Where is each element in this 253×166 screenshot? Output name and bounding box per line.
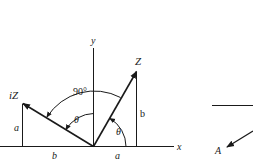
- theta-iz-arc: [66, 114, 94, 130]
- iz-vertical-label: a: [14, 122, 19, 133]
- fragment-label: A: [214, 145, 222, 156]
- iz-vector: [23, 104, 94, 147]
- z-vertical-label: b: [140, 108, 145, 119]
- right-angle-label: 90°: [73, 86, 87, 97]
- y-axis-label: y: [90, 35, 96, 46]
- theta-iz-label: θ: [74, 114, 79, 125]
- z-horizontal-label: a: [115, 150, 120, 161]
- iz-label: iZ: [9, 89, 19, 101]
- z-label: Z: [135, 55, 142, 67]
- fragment-arrow: [227, 131, 253, 147]
- z-vector: [94, 72, 137, 147]
- theta-z-label: θ: [116, 126, 121, 137]
- x-axis-label: x: [176, 141, 182, 152]
- complex-rotation-diagram: x y Z b a iZ a b 90° θ θ A: [0, 0, 253, 166]
- iz-horizontal-label: b: [52, 150, 57, 161]
